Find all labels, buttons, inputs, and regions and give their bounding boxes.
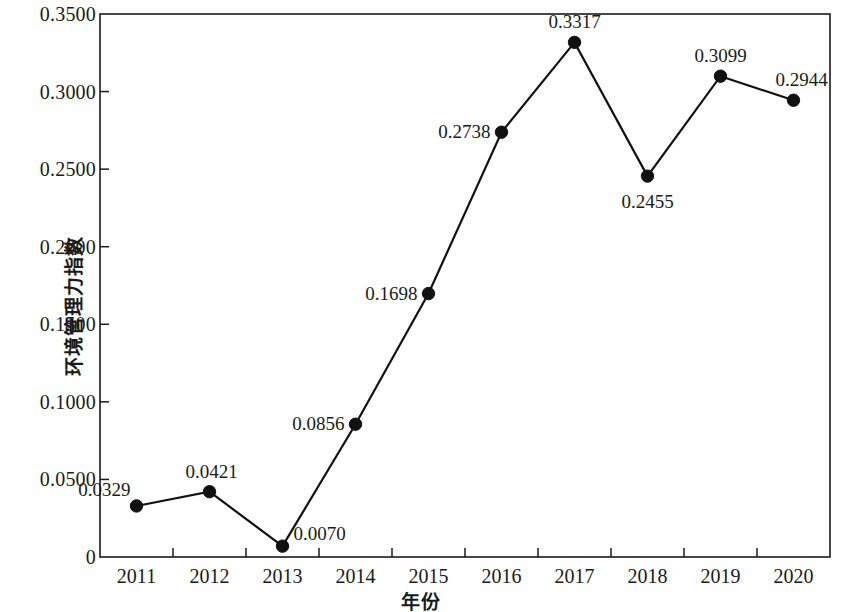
data-point-marker — [568, 36, 580, 48]
data-point-marker — [276, 540, 288, 552]
data-point-marker — [714, 70, 726, 82]
data-point-value-label: 0.0421 — [185, 462, 237, 481]
data-point-value-label: 0.0329 — [78, 480, 130, 499]
chart-container: 0.35000.30000.25000.20000.15000.10000.05… — [0, 0, 842, 612]
plot-area — [0, 0, 842, 612]
data-point-marker — [495, 126, 507, 138]
data-point-value-label: 0.3099 — [694, 46, 746, 65]
data-point-marker — [130, 500, 142, 512]
data-point-value-label: 0.0070 — [294, 524, 346, 543]
y-axis-title: 环境管理力指数 — [59, 236, 86, 376]
data-point-marker — [203, 485, 215, 497]
data-point-marker — [787, 94, 799, 106]
data-point-marker — [422, 287, 434, 299]
x-axis-ticks — [173, 548, 757, 557]
data-point-value-label: 0.0856 — [292, 414, 344, 433]
data-point-value-label: 0.2455 — [621, 192, 673, 211]
data-point-value-label: 0.1698 — [365, 284, 417, 303]
data-point-marker — [349, 418, 361, 430]
data-point-value-label: 0.3317 — [548, 12, 600, 31]
data-point-value-label: 0.2944 — [775, 70, 827, 89]
data-point-marker — [641, 170, 653, 182]
data-point-value-label: 0.2738 — [438, 122, 490, 141]
x-axis-title: 年份 — [401, 587, 441, 612]
y-axis-ticks — [100, 92, 109, 480]
